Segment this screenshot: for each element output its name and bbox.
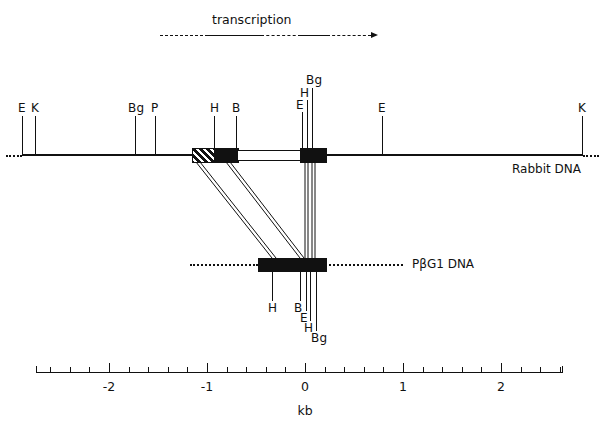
kb-axis-major-tick <box>305 363 306 373</box>
kb-axis-minor-tick <box>560 367 561 373</box>
kb-axis-baseline <box>36 372 562 373</box>
kb-axis-minor-tick <box>325 367 326 373</box>
kb-axis-tick-label: 0 <box>285 379 325 394</box>
kb-axis-minor-tick <box>129 367 130 373</box>
kb-axis-major-tick <box>207 363 208 373</box>
kb-axis-minor-tick <box>148 367 149 373</box>
kb-axis-endcap-right <box>562 366 563 373</box>
kb-axis-minor-tick <box>89 367 90 373</box>
kb-axis-major-tick <box>501 363 502 373</box>
kb-axis-major-tick <box>109 363 110 373</box>
kb-axis-minor-tick <box>344 367 345 373</box>
kb-axis-minor-tick <box>246 367 247 373</box>
kb-axis-minor-tick <box>423 367 424 373</box>
kb-axis-minor-tick <box>187 367 188 373</box>
kb-axis-minor-tick <box>540 367 541 373</box>
kb-axis-title: kb <box>288 403 322 418</box>
kb-axis-tick-label: -2 <box>89 379 129 394</box>
restriction-map-figure: transcription Rabbit DNA E K Bg P H B E <box>0 0 608 434</box>
kb-axis-minor-tick <box>227 367 228 373</box>
kb-axis-major-tick <box>403 363 404 373</box>
kb-axis-minor-tick <box>383 367 384 373</box>
kb-axis-tick-label: 1 <box>383 379 423 394</box>
kb-axis-minor-tick <box>50 367 51 373</box>
kb-axis-minor-tick <box>462 367 463 373</box>
kb-scale-axis: -2-1012 <box>0 0 608 434</box>
kb-axis-tick-label: 2 <box>481 379 521 394</box>
kb-axis-endcap-left <box>36 366 37 373</box>
kb-axis-minor-tick <box>521 367 522 373</box>
kb-axis-minor-tick <box>266 367 267 373</box>
kb-axis-minor-tick <box>442 367 443 373</box>
kb-axis-minor-tick <box>481 367 482 373</box>
kb-axis-minor-tick <box>70 367 71 373</box>
kb-axis-minor-tick <box>168 367 169 373</box>
kb-axis-minor-tick <box>285 367 286 373</box>
kb-axis-tick-label: -1 <box>187 379 227 394</box>
kb-axis-minor-tick <box>364 367 365 373</box>
